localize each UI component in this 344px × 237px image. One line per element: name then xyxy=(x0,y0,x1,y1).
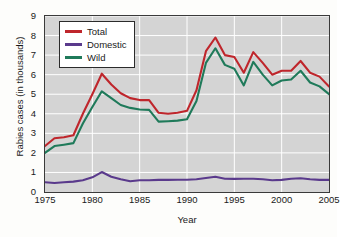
x-axis-title: Year xyxy=(44,214,330,225)
legend-item-label: Domestic xyxy=(87,40,127,50)
x-tick-label: 1995 xyxy=(214,195,254,205)
legend-color-swatch xyxy=(65,43,82,46)
x-tick-label: 2005 xyxy=(309,195,344,205)
y-tick-label: 9 xyxy=(0,11,36,21)
y-tick-label: 1 xyxy=(0,167,36,177)
x-tick-label: 2000 xyxy=(262,195,302,205)
y-tick-label: 2 xyxy=(0,148,36,158)
x-tick-label: 1975 xyxy=(25,195,65,205)
x-tick-label: 1980 xyxy=(72,195,112,205)
y-tick-label: 4 xyxy=(0,109,36,119)
y-tick-label: 5 xyxy=(0,89,36,99)
x-tick-label: 1985 xyxy=(120,195,160,205)
legend-item-domestic: Domestic xyxy=(65,38,127,51)
y-tick-label: 7 xyxy=(0,50,36,60)
legend-color-swatch xyxy=(65,30,82,33)
y-tick-label: 6 xyxy=(0,70,36,80)
y-tick-label: 8 xyxy=(0,31,36,41)
legend-item-total: Total xyxy=(65,25,127,38)
legend-item-label: Total xyxy=(87,27,107,37)
legend-color-swatch xyxy=(65,56,82,59)
y-tick-label: 3 xyxy=(0,128,36,138)
legend-item-wild: Wild xyxy=(65,51,127,64)
x-tick-label: 1990 xyxy=(167,195,207,205)
chart-legend: TotalDomesticWild xyxy=(59,21,135,68)
legend-item-label: Wild xyxy=(87,53,105,63)
